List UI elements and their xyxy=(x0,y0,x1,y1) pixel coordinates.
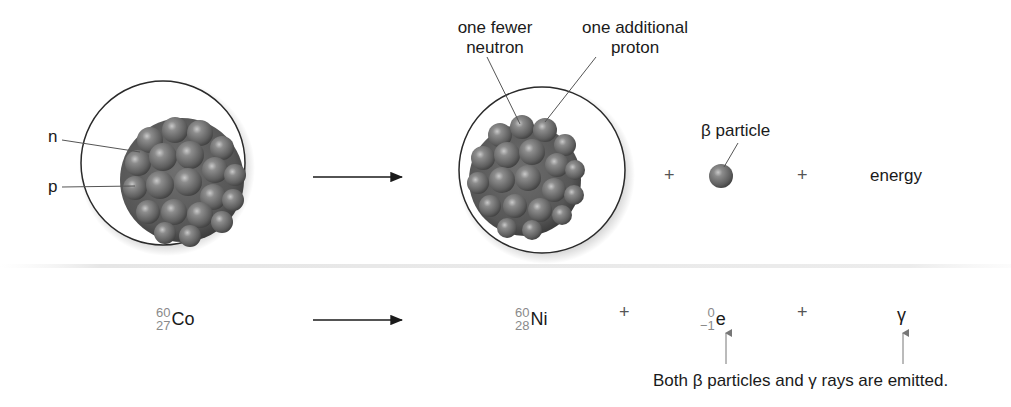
cobalt-atom xyxy=(62,80,255,256)
row-divider xyxy=(0,264,1011,268)
proton-label: p xyxy=(48,177,57,197)
electron-symbol: e xyxy=(716,309,726,329)
nickel-symbol: Ni xyxy=(530,309,547,329)
fewer-neutron-line1: one fewer xyxy=(430,18,560,38)
plus-sign-top-2: + xyxy=(797,165,808,186)
diagram-canvas xyxy=(0,0,1011,407)
beta-leader-line xyxy=(724,143,738,167)
electron-charge-number: −1 xyxy=(700,319,715,332)
nickel-60-nuclide: 6028Ni xyxy=(515,306,547,332)
fewer-neutron-annotation: one fewer neutron xyxy=(430,18,560,58)
plus-sign-top-1: + xyxy=(664,165,675,186)
additional-proton-annotation: one additional proton xyxy=(565,18,705,58)
electron-nuclide: 0−1e xyxy=(700,306,726,332)
beta-particle xyxy=(709,143,738,188)
cobalt-60-nuclide: 6027Co xyxy=(156,306,194,332)
gamma-ray-symbol: γ xyxy=(897,305,906,326)
cobalt-symbol: Co xyxy=(171,309,194,329)
nickel-atomic-number: 28 xyxy=(515,319,529,332)
emission-caption: Both β particles and γ rays are emitted. xyxy=(653,371,948,391)
additional-proton-line2: proton xyxy=(565,38,705,58)
plus-sign-bottom-2: + xyxy=(797,302,808,323)
neutron-label: n xyxy=(48,127,57,147)
cobalt-atomic-number: 27 xyxy=(156,319,170,332)
plus-sign-bottom-1: + xyxy=(619,302,630,323)
energy-label: energy xyxy=(870,166,922,186)
additional-proton-line1: one additional xyxy=(565,18,705,38)
fewer-neutron-line2: neutron xyxy=(430,38,560,58)
nickel-atom xyxy=(457,57,635,264)
beta-particle-label: β particle xyxy=(701,121,770,141)
